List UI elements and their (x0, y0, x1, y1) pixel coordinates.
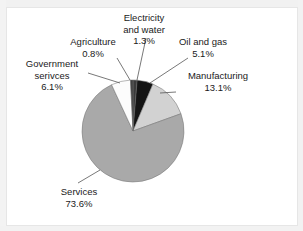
slice-label-services-line1: Services (61, 186, 97, 197)
slice-label-services: Services 73.6% (48, 186, 110, 209)
slice-label-electricity-line1: Electricity (124, 12, 165, 23)
slice-label-oil-and-gas: Oil and gas 5.1% (172, 36, 234, 59)
leader-line-government (88, 73, 120, 83)
slice-value-services: 73.6% (48, 198, 110, 210)
slice-label-government-line2: serivces (35, 70, 70, 81)
slice-label-government-line1: Government (26, 58, 78, 69)
slice-label-government-services: Government serivces 6.1% (14, 58, 90, 93)
leader-line-services (78, 170, 100, 183)
leader-line-agriculture (117, 58, 130, 80)
slice-label-agriculture: Agriculture 0.8% (62, 36, 124, 59)
slice-value-oilgas: 5.1% (172, 48, 234, 60)
slice-label-manufacturing: Manufacturing 13.1% (178, 70, 258, 93)
slice-label-agriculture-line1: Agriculture (70, 36, 115, 47)
slice-value-government: 6.1% (14, 81, 90, 93)
slice-value-manufacturing: 13.1% (178, 82, 258, 94)
slice-label-electricity-line2: and water (123, 24, 165, 35)
slice-label-manufacturing-line1: Manufacturing (188, 70, 248, 81)
slice-label-oilgas-line1: Oil and gas (179, 36, 227, 47)
pie-slice-group (82, 80, 184, 182)
pie-chart-figure: Electricity and water 1.3% Agriculture 0… (0, 0, 303, 231)
